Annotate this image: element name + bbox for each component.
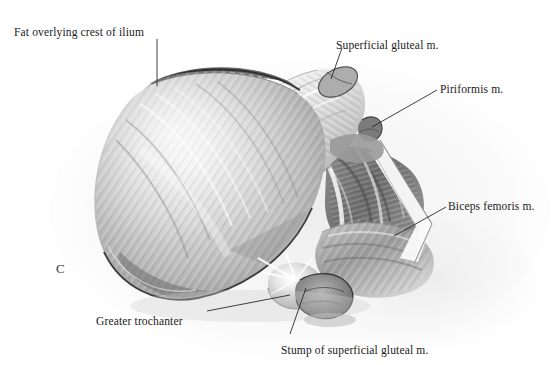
anatomical-figure	[0, 0, 551, 365]
label-superficial-gluteal-muscle: Superficial gluteal m.	[336, 39, 439, 51]
label-greater-trochanter: Greater trochanter	[96, 315, 183, 327]
label-fat-overlying-crest-of-ilium: Fat overlying crest of ilium	[14, 26, 144, 38]
panel-letter: C	[56, 261, 65, 277]
label-piriformis-muscle: Piriformis m.	[440, 83, 503, 95]
illustration-canvas	[0, 0, 551, 365]
label-stump-of-superficial-gluteal-muscle: Stump of superficial gluteal m.	[281, 344, 428, 356]
label-biceps-femoris-muscle: Biceps femoris m.	[448, 200, 535, 212]
